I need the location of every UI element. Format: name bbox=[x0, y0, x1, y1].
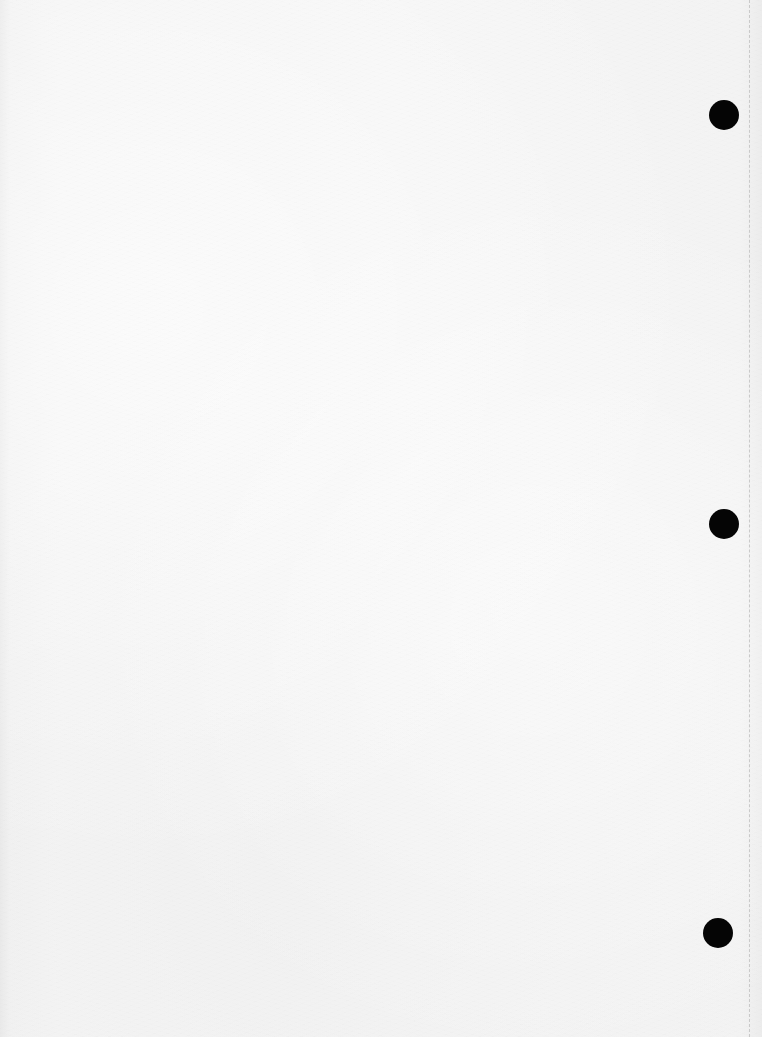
punch-hole-bottom bbox=[703, 918, 733, 948]
punch-hole-middle bbox=[709, 509, 739, 539]
punch-hole-top bbox=[709, 100, 739, 130]
paper-texture bbox=[0, 0, 762, 1037]
blank-document-page bbox=[0, 0, 762, 1037]
perforation-line bbox=[749, 0, 750, 1037]
